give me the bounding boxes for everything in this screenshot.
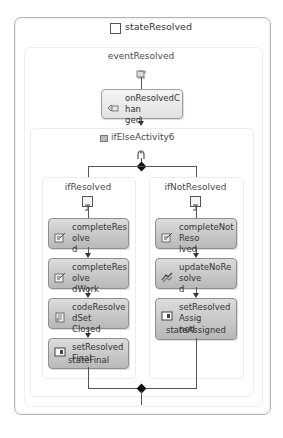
connector-line: [88, 367, 89, 388]
handle-external-event-icon: [107, 99, 119, 110]
activity-label-line1: codeResolvedSet: [72, 302, 126, 323]
activity-label-line1: onResolvedChan: [125, 93, 180, 114]
activity-label-line1: updateNoResolve: [179, 262, 231, 283]
connector-line: [141, 391, 142, 405]
connector-line: [196, 338, 197, 388]
activity-label-line1: setResolvedAssig: [179, 302, 230, 323]
ifelse-icon: [100, 135, 108, 142]
split-line: [88, 166, 196, 167]
task-icon: [54, 228, 66, 239]
activity-label-line2: d: [179, 284, 184, 294]
activity-completeResolved[interactable]: completeResolve d: [48, 218, 129, 249]
branch-icon: [135, 146, 147, 158]
connector-line: [196, 166, 197, 177]
activity-completeResolvedWork[interactable]: completeResolve dWork: [48, 258, 129, 289]
branch-label: ifNotResolved: [149, 182, 242, 192]
activity-setResolvedFinal[interactable]: setResolvedFinal stateFinal: [48, 338, 129, 369]
activity-completeNotResolved[interactable]: completeNotReso lved: [155, 218, 237, 249]
activity-setResolvedAssigned[interactable]: setResolvedAssig ned stateAssigned: [155, 298, 237, 340]
activity-label-line2: d: [72, 244, 77, 254]
activity-target-state[interactable]: stateFinal: [49, 355, 128, 365]
set-state-icon: [54, 343, 66, 354]
ifelse-branch-icon: [190, 196, 201, 207]
activity-label-line1: completeNotReso: [179, 222, 234, 243]
activity-label-line1: completeResolve: [72, 262, 127, 283]
ifelse-branch-icon: [82, 196, 93, 207]
event-driven-icon: [135, 65, 147, 76]
event-label: eventResolved: [91, 51, 191, 61]
state-title: stateResolved: [125, 21, 192, 32]
ifelse-title-row: ifElseActivity6: [100, 132, 190, 144]
ifelse-label: ifElseActivity6: [111, 132, 174, 142]
connector-line: [141, 77, 142, 89]
connector-line: [196, 207, 197, 218]
activity-codeResolvedSetClosed[interactable]: codeResolvedSet Closed: [48, 298, 129, 329]
arrow-down-icon: [138, 121, 144, 126]
activity-onResolvedChanged[interactable]: onResolvedChan ged: [101, 89, 183, 119]
connector-line: [88, 207, 89, 218]
activity-updateNoResolved[interactable]: updateNoResolve d: [155, 258, 237, 289]
set-state-icon: [161, 307, 173, 318]
task-icon: [161, 228, 173, 239]
activity-target-state[interactable]: stateAssigned: [156, 325, 236, 335]
connector-line: [88, 166, 89, 177]
state-icon: [110, 23, 121, 34]
task-icon: [54, 268, 66, 279]
activity-label-line1: completeResolve: [72, 222, 127, 243]
update-icon: [161, 268, 173, 279]
code-icon: [54, 308, 66, 319]
branch-label: ifResolved: [42, 182, 134, 192]
state-title-row[interactable]: stateResolved: [110, 21, 210, 35]
